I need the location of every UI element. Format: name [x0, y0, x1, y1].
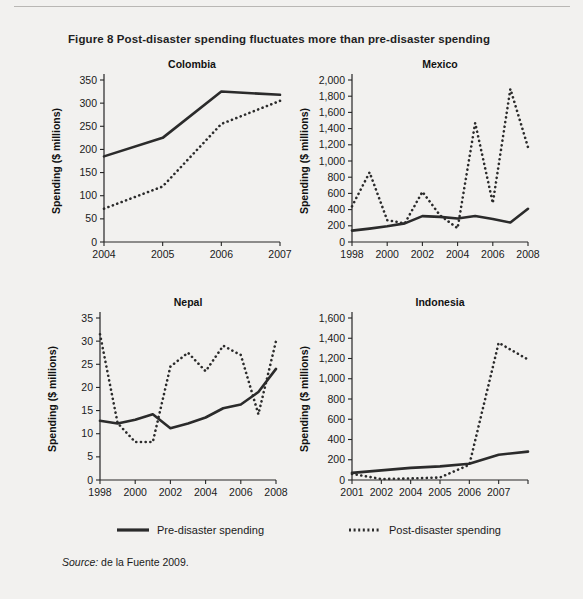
- y-tick-label: 350: [79, 74, 97, 86]
- x-tick-label: 2005: [428, 486, 452, 498]
- y-tick-label: 1,200: [319, 138, 345, 150]
- x-tick-label: 2002: [370, 486, 394, 498]
- y-tick-label: 600: [327, 187, 345, 199]
- y-tick-label: 1,400: [319, 332, 345, 344]
- y-tick-label: 250: [79, 120, 97, 132]
- chart-panel-colombia: ColombiaSpending ($ millions)05010015020…: [48, 56, 288, 276]
- series-post-disaster: [352, 89, 528, 228]
- panel-title: Colombia: [168, 58, 216, 70]
- y-tick-label: 25: [81, 358, 93, 370]
- figure-title: Figure 8 Post-disaster spending fluctuat…: [68, 33, 490, 45]
- y-axis-title: Spending ($ millions): [46, 346, 58, 452]
- x-tick-label: 2004: [446, 248, 470, 260]
- y-tick-label: 5: [87, 450, 93, 462]
- series-post-disaster: [352, 343, 528, 479]
- x-tick-label: 2002: [411, 248, 435, 260]
- x-tick-label: 2004: [194, 486, 218, 498]
- panel-title: Mexico: [422, 58, 458, 70]
- source-note: Source: de la Fuente 2009.: [62, 556, 189, 568]
- x-tick-label: 2007: [268, 248, 292, 260]
- y-tick-label: 0: [339, 236, 345, 248]
- y-tick-label: 400: [327, 433, 345, 445]
- x-tick-label: 2008: [264, 486, 288, 498]
- y-tick-label: 10: [81, 427, 93, 439]
- panel-title: Indonesia: [415, 296, 464, 308]
- source-text: de la Fuente 2009.: [98, 556, 189, 568]
- y-axis-title: Spending ($ millions): [298, 108, 310, 214]
- x-tick-label: 2004: [92, 248, 116, 260]
- x-tick-label: 2005: [151, 248, 175, 260]
- series-pre-disaster: [352, 209, 528, 231]
- y-tick-label: 800: [327, 393, 345, 405]
- y-tick-label: 30: [81, 335, 93, 347]
- y-tick-label: 150: [79, 166, 97, 178]
- y-tick-label: 300: [79, 97, 97, 109]
- x-tick-label: 2002: [159, 486, 183, 498]
- x-tick-label: 2001: [340, 486, 364, 498]
- legend-swatch-dotted-line: [348, 524, 382, 536]
- y-tick-label: 600: [327, 413, 345, 425]
- y-tick-label: 0: [87, 474, 93, 486]
- y-tick-label: 1,800: [319, 90, 345, 102]
- x-tick-label: 1998: [340, 248, 364, 260]
- x-tick-label: 2008: [516, 248, 540, 260]
- y-tick-label: 1,000: [319, 372, 345, 384]
- y-tick-label: 100: [79, 189, 97, 201]
- legend-label-post-disaster: Post-disaster spending: [389, 524, 501, 536]
- source-label: Source:: [62, 556, 98, 568]
- chart-panel-nepal: NepalSpending ($ millions)05101520253035…: [44, 294, 284, 514]
- y-tick-label: 1,400: [319, 122, 345, 134]
- page-top-rule: [14, 6, 570, 7]
- x-tick-label: 2006: [210, 248, 234, 260]
- x-tick-label: 2004: [399, 486, 423, 498]
- x-tick-label: 2000: [376, 248, 400, 260]
- x-tick-label: 2006: [229, 486, 253, 498]
- x-tick-label: 2000: [124, 486, 148, 498]
- y-tick-label: 1,000: [319, 155, 345, 167]
- y-tick-label: 0: [339, 474, 345, 486]
- y-tick-label: 800: [327, 171, 345, 183]
- y-tick-label: 35: [81, 312, 93, 324]
- series-pre-disaster: [352, 452, 528, 473]
- y-axis-title: Spending ($ millions): [298, 346, 310, 452]
- series-post-disaster: [100, 334, 276, 442]
- y-tick-label: 200: [79, 143, 97, 155]
- legend-item-pre-disaster: Pre-disaster spending: [116, 524, 264, 536]
- x-tick-label: 1998: [88, 486, 112, 498]
- y-tick-label: 50: [85, 212, 97, 224]
- y-tick-label: 1,600: [319, 106, 345, 118]
- y-tick-label: 400: [327, 203, 345, 215]
- x-tick-label: 2006: [458, 486, 482, 498]
- y-tick-label: 20: [81, 381, 93, 393]
- y-tick-label: 1,200: [319, 352, 345, 364]
- y-tick-label: 0: [91, 236, 97, 248]
- series-pre-disaster: [100, 369, 276, 428]
- figure-legend: Pre-disaster spending Post-disaster spen…: [0, 524, 583, 544]
- legend-label-pre-disaster: Pre-disaster spending: [157, 524, 264, 536]
- y-tick-label: 200: [327, 453, 345, 465]
- y-tick-label: 1,600: [319, 312, 345, 324]
- legend-item-post-disaster: Post-disaster spending: [348, 524, 501, 536]
- y-tick-label: 2,000: [319, 74, 345, 86]
- legend-swatch-solid-line: [116, 524, 150, 536]
- x-tick-label: 2006: [481, 248, 505, 260]
- chart-panel-indonesia: IndonesiaSpending ($ millions)0200400600…: [296, 294, 536, 514]
- y-axis-title: Spending ($ millions): [50, 108, 62, 214]
- chart-panel-mexico: MexicoSpending ($ millions)0200400600800…: [296, 56, 536, 276]
- series-post-disaster: [104, 101, 280, 209]
- figure-page: Figure 8 Post-disaster spending fluctuat…: [0, 0, 583, 599]
- series-pre-disaster: [104, 92, 280, 157]
- panel-title: Nepal: [174, 296, 203, 308]
- y-tick-label: 200: [327, 219, 345, 231]
- y-tick-label: 15: [81, 404, 93, 416]
- x-tick-label: 2007: [487, 486, 511, 498]
